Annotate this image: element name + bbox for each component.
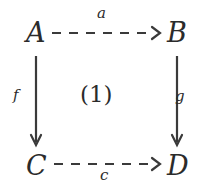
arrow-f [31,56,41,145]
arrow-c-head [152,158,160,170]
commutative-diagram: B --> D --> C --> D --> A B C D a c f g … [0,0,211,191]
edge-label-c: c [100,168,108,183]
arrow-a-head [152,27,160,39]
node-b: B [167,19,187,46]
edge-label-a: a [97,6,106,21]
arrow-a [52,27,160,39]
node-a: A [26,19,46,46]
node-d: D [167,152,189,179]
edge-label-g: g [175,89,185,104]
cell-label: (1) [80,83,113,106]
edge-label-f: f [13,88,19,103]
node-c: C [26,152,47,179]
